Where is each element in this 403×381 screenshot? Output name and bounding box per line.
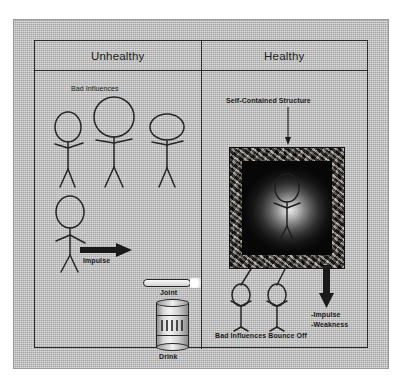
joint-object (143, 279, 201, 287)
comparison-table: Unhealthy Healthy Bad Influences (34, 40, 368, 348)
bounced-figure-2 (267, 284, 287, 331)
diagram-page: Unhealthy Healthy Bad Influences (0, 0, 403, 381)
protected-figure (262, 172, 312, 244)
drink-can-object (156, 299, 189, 351)
can-label-marks (161, 320, 184, 331)
column-header-healthy: Healthy (202, 41, 368, 70)
impulse-label: Impulse (83, 257, 110, 264)
bad-influences-label: Bad Influences (71, 85, 119, 92)
panel-unhealthy: Bad Influences (35, 71, 201, 349)
weakness-reduction-label: -Weakness (311, 321, 348, 328)
self-contained-structure-label: Self-Contained Structure (226, 97, 311, 104)
structure-interior (242, 161, 332, 255)
impulse-reduction-label: -Impulse (311, 311, 341, 318)
self-contained-structure (229, 147, 345, 269)
can-band-upper (156, 315, 189, 316)
joint-body (143, 279, 191, 287)
bad-influence-figures-group (43, 95, 203, 191)
joint-lit-tip-icon (190, 278, 201, 288)
bounced-figures-group (229, 267, 315, 331)
bad-influences-bounce-off-label: Bad Influences Bounce Off (215, 332, 307, 339)
can-band-lower (156, 335, 189, 336)
impulse-arrow-icon (80, 243, 136, 257)
bad-influence-figure-1 (55, 112, 83, 187)
bad-influence-figure-2 (94, 97, 134, 187)
can-bottom-rim (156, 343, 189, 351)
structure-pointer-arrow-icon (285, 107, 295, 147)
table-header-row: Unhealthy Healthy (35, 41, 367, 71)
column-header-unhealthy: Unhealthy (35, 41, 202, 70)
bounced-figure-1 (231, 284, 251, 331)
reduction-arrow-icon (319, 265, 337, 309)
diagram-canvas: Unhealthy Healthy Bad Influences (14, 20, 388, 368)
can-top-rim (156, 299, 189, 307)
panel-healthy: Self-Contained Structure (201, 71, 367, 349)
bad-influence-figure-3 (150, 114, 184, 187)
joint-label: Joint (160, 289, 177, 296)
drink-label: Drink (159, 353, 177, 360)
